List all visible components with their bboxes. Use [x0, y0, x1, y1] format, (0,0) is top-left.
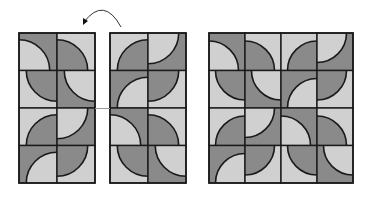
panels-layer — [19, 33, 353, 183]
quilt-tile — [110, 33, 148, 71]
quilt-tile — [245, 33, 281, 71]
quilt-tile — [148, 146, 186, 184]
quilt-tile — [245, 108, 281, 146]
quilt-tile — [209, 146, 245, 184]
quilt-tile — [209, 33, 245, 71]
quilt-tile — [57, 146, 95, 184]
flip-arrow-icon — [83, 10, 121, 27]
quilt-tile — [57, 108, 95, 146]
quilt-tile — [209, 108, 245, 146]
left-panel — [19, 33, 95, 183]
quilt-tile — [110, 146, 148, 184]
right-panel — [209, 33, 353, 183]
quilt-tile — [110, 108, 148, 146]
quilt-tile — [317, 108, 353, 146]
middle-panel — [110, 33, 186, 183]
quilt-tile — [110, 71, 148, 109]
quilt-tile — [317, 33, 353, 71]
quilt-tile — [245, 146, 281, 184]
quilt-tile — [19, 71, 57, 109]
quilt-tile — [148, 108, 186, 146]
quilt-tile — [281, 33, 317, 71]
quilt-tile — [281, 146, 317, 184]
quilt-tile — [57, 71, 95, 109]
quilt-tile — [209, 71, 245, 109]
quilt-tile — [57, 33, 95, 71]
quilt-tile — [281, 108, 317, 146]
quilt-tile — [148, 71, 186, 109]
quilt-tile — [19, 33, 57, 71]
quilt-tile — [317, 146, 353, 184]
quilt-tile — [317, 71, 353, 109]
quilt-tile — [148, 33, 186, 71]
quilt-diagram — [0, 0, 372, 197]
quilt-tile — [19, 108, 57, 146]
quilt-tile — [19, 146, 57, 184]
quilt-tile — [281, 71, 317, 109]
quilt-tile — [245, 71, 281, 109]
